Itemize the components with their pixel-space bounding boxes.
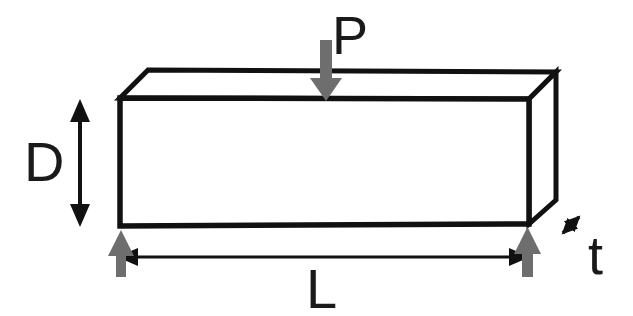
support-arrow-right xyxy=(514,227,541,277)
beam-bending-diagram: P D L t xyxy=(0,0,633,316)
thickness-dimension-t xyxy=(563,217,579,233)
beam-front-face xyxy=(120,98,529,226)
label-thickness-t: t xyxy=(588,228,603,282)
support-arrow-left xyxy=(108,230,134,277)
label-depth-D: D xyxy=(24,134,64,190)
beam-right-face xyxy=(529,72,556,224)
beam-body xyxy=(120,70,556,226)
label-length-L: L xyxy=(306,261,337,316)
beam-top-face xyxy=(120,70,556,99)
depth-dimension-D xyxy=(70,99,90,227)
label-load-P: P xyxy=(332,8,368,62)
